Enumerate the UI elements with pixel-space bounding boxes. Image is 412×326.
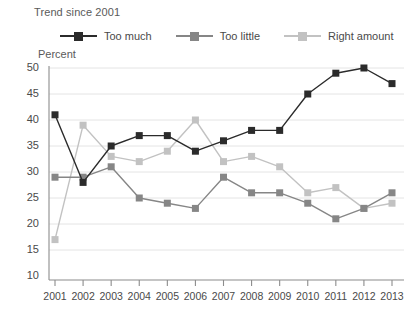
y-tick-label-10: 10	[27, 269, 39, 281]
data-point-marker[interactable]	[304, 189, 311, 196]
y-tick-label-25: 25	[27, 191, 39, 203]
x-tick-label-2006: 2006	[184, 290, 208, 302]
data-point-marker[interactable]	[220, 158, 227, 165]
x-tick-label-2007: 2007	[212, 290, 236, 302]
y-tick-label-45: 45	[27, 87, 39, 99]
data-point-marker[interactable]	[220, 174, 227, 181]
x-tick-label-2012: 2012	[352, 290, 376, 302]
data-point-marker[interactable]	[136, 132, 143, 139]
data-point-marker[interactable]	[248, 127, 255, 134]
data-point-marker[interactable]	[136, 195, 143, 202]
chart-root: Trend since 2001 Too muchToo littleRight…	[0, 0, 412, 326]
data-point-marker[interactable]	[192, 205, 199, 212]
data-point-marker[interactable]	[389, 80, 396, 87]
data-point-marker[interactable]	[164, 200, 171, 207]
x-tick-label-2008: 2008	[240, 290, 264, 302]
data-point-marker[interactable]	[389, 189, 396, 196]
plot-area: 1015202530354045502001200220032004200520…	[0, 0, 412, 326]
x-tick-label-2002: 2002	[71, 290, 95, 302]
data-point-marker[interactable]	[248, 153, 255, 160]
x-tick-label-2011: 2011	[325, 290, 348, 302]
data-point-marker[interactable]	[80, 122, 87, 129]
y-tick-label-35: 35	[27, 139, 39, 151]
data-point-marker[interactable]	[276, 127, 283, 134]
data-point-marker[interactable]	[52, 174, 59, 181]
data-point-marker[interactable]	[52, 111, 59, 118]
x-tick-label-2013: 2013	[380, 290, 404, 302]
x-tick-label-2004: 2004	[128, 290, 152, 302]
data-point-marker[interactable]	[192, 117, 199, 124]
y-tick-label-20: 20	[27, 217, 39, 229]
data-point-marker[interactable]	[136, 158, 143, 165]
series-too-much	[52, 65, 396, 186]
data-point-marker[interactable]	[332, 184, 339, 191]
line-chart-svg: 1015202530354045502001200220032004200520…	[0, 0, 412, 326]
data-point-marker[interactable]	[332, 70, 339, 77]
x-tick-label-2003: 2003	[99, 290, 123, 302]
x-tick-label-2010: 2010	[296, 290, 320, 302]
data-point-marker[interactable]	[360, 205, 367, 212]
data-point-marker[interactable]	[164, 132, 171, 139]
data-point-marker[interactable]	[108, 163, 115, 170]
data-point-marker[interactable]	[248, 189, 255, 196]
data-point-marker[interactable]	[332, 215, 339, 222]
y-tick-label-15: 15	[27, 243, 39, 255]
y-tick-label-30: 30	[27, 165, 39, 177]
data-point-marker[interactable]	[108, 143, 115, 150]
data-point-marker[interactable]	[304, 200, 311, 207]
x-tick-label-2005: 2005	[156, 290, 180, 302]
data-point-marker[interactable]	[220, 137, 227, 144]
data-point-marker[interactable]	[80, 179, 87, 186]
data-point-marker[interactable]	[276, 189, 283, 196]
data-point-marker[interactable]	[389, 200, 396, 207]
data-point-marker[interactable]	[192, 148, 199, 155]
data-point-marker[interactable]	[108, 153, 115, 160]
x-tick-label-2001: 2001	[43, 290, 67, 302]
y-tick-label-50: 50	[27, 61, 39, 73]
data-point-marker[interactable]	[52, 236, 59, 243]
x-tick-label-2009: 2009	[268, 290, 292, 302]
data-point-marker[interactable]	[164, 148, 171, 155]
y-tick-label-40: 40	[27, 113, 39, 125]
data-point-marker[interactable]	[276, 163, 283, 170]
data-point-marker[interactable]	[360, 65, 367, 72]
series-line	[55, 68, 392, 182]
data-point-marker[interactable]	[304, 91, 311, 98]
